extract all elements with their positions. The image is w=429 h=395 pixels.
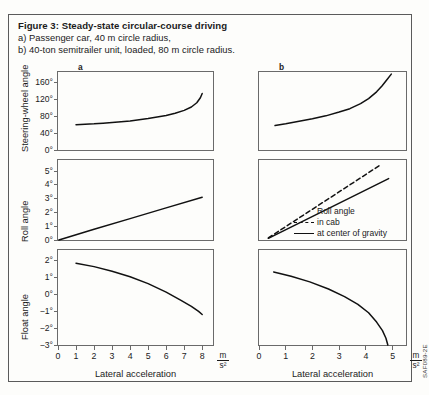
- xtick-mark-b-0: [259, 346, 260, 350]
- plot-a-steering: [57, 71, 214, 151]
- ytick-mark-a-float-1: [54, 328, 57, 329]
- xtick-mark-a-7: [184, 346, 185, 350]
- curve-layer-a-roll: [58, 160, 213, 240]
- xaxis-title-a: Lateral acceleration: [92, 369, 180, 379]
- xtick-mark-b-4: [365, 346, 366, 350]
- ytick-mark-a-float-3: [54, 294, 57, 295]
- plot-a-roll: [57, 159, 214, 241]
- ytick-mark-a-roll-1: [54, 226, 57, 227]
- ytick-label-a-roll-4: 4°: [21, 179, 53, 189]
- xtick-label-a-1: 1: [66, 351, 86, 361]
- curve-layer-b-float: [259, 250, 406, 345]
- xtick-label-a-7: 7: [174, 351, 194, 361]
- xtick-mark-a-3: [112, 346, 113, 350]
- xtick-label-a-2: 2: [84, 351, 104, 361]
- legend-swatch-solid-line: [294, 230, 314, 237]
- figure-caption-line-b: b) 40-ton semitrailer unit, loaded, 80 m…: [18, 44, 398, 56]
- figure-caption-line-a: a) Passenger car, 40 m circle radius,: [18, 32, 398, 44]
- ytick-label-a-float-5: 2°: [21, 255, 53, 265]
- xtick-label-a-8: 8: [192, 351, 212, 361]
- xtick-mark-b-2: [312, 346, 313, 350]
- roll-angle-legend: Roll anglein cabat center of gravity: [294, 206, 387, 239]
- ytick-label-a-roll-5: 5°: [21, 166, 53, 176]
- unit-numerator-a: m: [220, 351, 227, 360]
- ytick-mark-a-steering-1: [54, 133, 57, 134]
- xtick-mark-a-0: [58, 346, 59, 350]
- series-float-angle: [76, 263, 202, 314]
- legend-item-at-center-of-gravity: at center of gravity: [294, 228, 387, 239]
- series-roll-angle: [59, 197, 202, 240]
- ytick-mark-a-roll-4: [54, 184, 57, 185]
- source-code-watermark: SAF089-2E: [421, 344, 428, 378]
- plot-b-float: [258, 249, 407, 346]
- legend-item-at-center-of-gravity-label: at center of gravity: [317, 228, 387, 239]
- xtick-mark-a-4: [130, 346, 131, 350]
- ytick-mark-a-steering-3: [54, 99, 57, 100]
- ytick-mark-a-steering-4: [54, 82, 57, 83]
- xtick-label-a-6: 6: [156, 351, 176, 361]
- series-steering-wheel-angle: [76, 94, 202, 125]
- xtick-label-a-4: 4: [120, 351, 140, 361]
- ytick-mark-a-roll-5: [54, 171, 57, 172]
- xtick-mark-a-8: [202, 346, 203, 350]
- unit-numerator-b: m: [413, 351, 420, 360]
- ytick-label-a-float-4: 1°: [21, 272, 53, 282]
- ytick-mark-a-roll-2: [54, 212, 57, 213]
- axis-label-float: Float angle: [20, 294, 30, 340]
- xtick-label-b-4: 4: [356, 351, 376, 361]
- xtick-label-b-1: 1: [276, 351, 296, 361]
- xtick-label-a-0: 0: [48, 351, 68, 361]
- plot-a-float: [57, 249, 214, 346]
- legend-item-in-cab-label: in cab: [317, 217, 340, 228]
- xaxis-title-b: Lateral acceleration: [289, 369, 377, 379]
- xtick-label-b-2: 2: [302, 351, 322, 361]
- legend-swatch-dashed-line: [294, 219, 314, 226]
- xtick-mark-b-5: [392, 346, 393, 350]
- ytick-mark-a-float-5: [54, 260, 57, 261]
- legend-title: Roll angle: [317, 206, 387, 217]
- xtick-label-a-3: 3: [102, 351, 122, 361]
- xtick-label-a-5: 5: [138, 351, 158, 361]
- xtick-label-b-3: 3: [329, 351, 349, 361]
- ytick-mark-a-float-2: [54, 311, 57, 312]
- curve-layer-a-steering: [58, 72, 213, 150]
- ytick-mark-a-roll-0: [54, 240, 57, 241]
- xtick-mark-b-3: [339, 346, 340, 350]
- figure-caption: Figure 3: Steady-state circular-course d…: [18, 20, 398, 56]
- figure-container: Figure 3: Steady-state circular-course d…: [0, 0, 429, 395]
- plot-b-steering: [258, 71, 407, 151]
- xtick-label-b-0: 0: [249, 351, 269, 361]
- curve-layer-a-float: [58, 250, 213, 345]
- series-steering-wheel-angle: [275, 74, 391, 125]
- ytick-label-a-float-0: −3°: [21, 340, 53, 350]
- ytick-mark-a-steering-2: [54, 116, 57, 117]
- curve-layer-b-steering: [259, 72, 406, 150]
- unit-denominator-a: s²: [217, 360, 229, 370]
- series-float-angle: [274, 272, 388, 345]
- ytick-mark-a-float-4: [54, 277, 57, 278]
- axis-label-steering: Steering-wheel angle: [20, 65, 30, 152]
- xtick-label-b-5: 5: [383, 351, 403, 361]
- xtick-mark-a-2: [94, 346, 95, 350]
- legend-item-in-cab: in cab: [294, 217, 387, 228]
- xtick-mark-a-6: [166, 346, 167, 350]
- xtick-mark-b-1: [285, 346, 286, 350]
- xtick-mark-a-5: [148, 346, 149, 350]
- figure-title: Figure 3: Steady-state circular-course d…: [18, 20, 398, 32]
- ytick-mark-a-roll-3: [54, 198, 57, 199]
- ytick-mark-a-steering-0: [54, 150, 57, 151]
- xaxis-unit-a: ms²: [217, 352, 229, 370]
- axis-label-roll: Roll angle: [20, 201, 30, 242]
- xtick-mark-a-1: [76, 346, 77, 350]
